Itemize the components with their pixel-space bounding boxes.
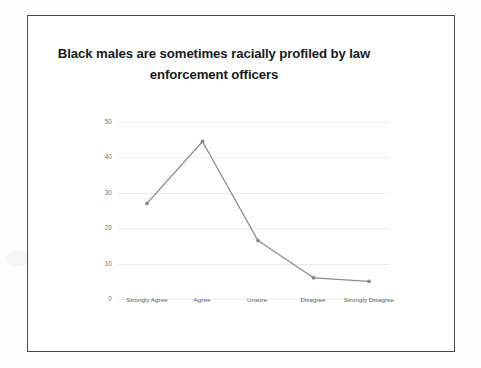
data-point-strongly-disagree bbox=[367, 279, 371, 283]
data-point-agree bbox=[201, 140, 205, 144]
data-point-strongly-agree bbox=[145, 202, 149, 206]
data-point-disagree bbox=[312, 276, 316, 280]
line-chart: 50 40 30 20 10 0 Strongly Agree Agree Un… bbox=[0, 0, 481, 368]
data-point-unsure bbox=[256, 239, 260, 243]
series-line-responses bbox=[0, 0, 481, 368]
